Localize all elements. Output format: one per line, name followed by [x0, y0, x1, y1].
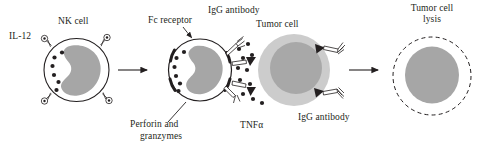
il12-receptor-icon — [101, 34, 111, 46]
igg-antibody-icon — [232, 81, 246, 88]
stage-3-tumor-cell — [258, 34, 345, 106]
adcc-diagram-figure: IL-12 NK cell Fc receptor IgG antibody T… — [0, 0, 479, 150]
label-igg-antibody-top: IgG antibody — [208, 5, 260, 16]
stage-2-activated-nk-cell — [168, 27, 264, 122]
label-tumor-cell-lysis-line2: lysis — [393, 14, 471, 25]
label-fc-receptor: Fc receptor — [148, 15, 192, 26]
label-tumor-cell-lysis-line1: Tumor cell — [393, 3, 471, 14]
fc-receptor-leader-line — [183, 27, 192, 38]
tumor-cell-nucleus — [270, 42, 322, 94]
lysed-tumor-nucleus — [405, 47, 459, 104]
label-perforin-line1: Perforin and — [130, 119, 178, 130]
label-igg-antibody-bottom: IgG antibody — [298, 112, 350, 123]
il12-receptor-icon — [41, 93, 51, 104]
label-nk-cell: NK cell — [58, 16, 89, 27]
stage-4-lysed-tumor-cell — [393, 37, 471, 115]
stage-1-resting-nk-cell — [41, 34, 112, 104]
igg-antibody-icon — [323, 88, 344, 99]
il12-receptor-icon — [102, 93, 112, 104]
igg-antibody-icon — [324, 43, 346, 55]
label-perforin-line2: granzymes — [140, 131, 182, 142]
antigen-triangle-icon — [246, 57, 256, 96]
il12-receptor-icon — [41, 35, 51, 47]
label-tumor-cell: Tumor cell — [256, 19, 299, 30]
igg-antibody-icon — [226, 37, 245, 56]
igg-antibody-icon — [232, 60, 247, 66]
label-tnfa: TNFα — [240, 120, 263, 131]
label-il12: IL-12 — [9, 31, 31, 42]
igg-antibody-icon — [224, 86, 240, 103]
